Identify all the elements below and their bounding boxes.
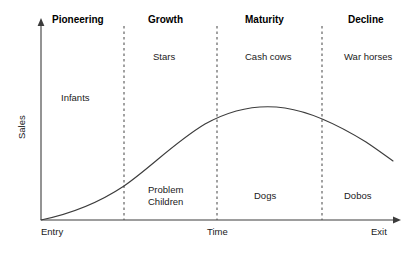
- x-axis-end-label: Exit: [371, 226, 387, 237]
- label-war-horses: War horses: [344, 51, 392, 64]
- label-children: Children: [148, 196, 183, 209]
- x-axis-title: Time: [207, 226, 228, 237]
- label-infants: Infants: [61, 92, 90, 105]
- y-axis: [38, 18, 45, 220]
- stage-header-maturity: Maturity: [245, 14, 284, 26]
- x-axis-start-label: Entry: [41, 226, 63, 237]
- label-cash-cows: Cash cows: [245, 51, 291, 64]
- y-axis-title: Sales: [16, 115, 27, 139]
- y-axis-arrowhead: [38, 18, 45, 26]
- label-stars: Stars: [153, 51, 175, 64]
- chart-canvas: [0, 0, 416, 256]
- stage-header-decline: Decline: [348, 14, 384, 26]
- stage-header-pioneering: Pioneering: [52, 14, 104, 26]
- x-axis-arrowhead: [393, 217, 401, 224]
- stage-header-growth: Growth: [148, 14, 183, 26]
- label-dobos: Dobos: [344, 190, 371, 203]
- label-dogs: Dogs: [254, 190, 276, 203]
- label-problem: Problem: [148, 184, 183, 197]
- x-axis: [41, 217, 401, 224]
- product-life-cycle-diagram: Pioneering Growth Maturity Decline Stars…: [0, 0, 416, 256]
